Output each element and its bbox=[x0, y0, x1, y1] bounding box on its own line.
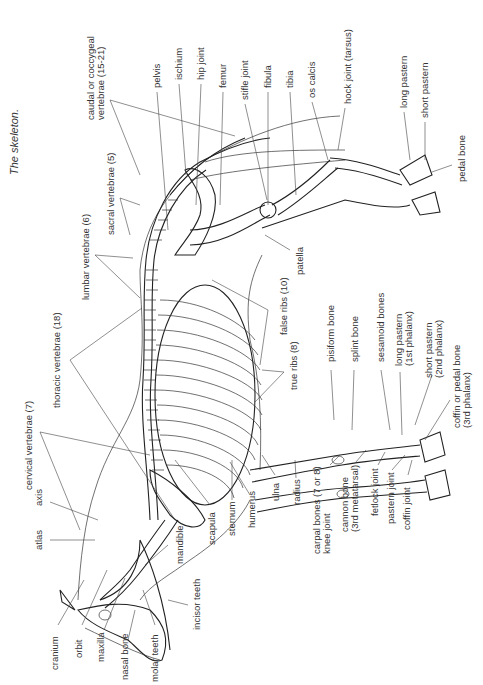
figure-title: The skeleton. bbox=[8, 109, 20, 175]
label-incisor-teeth: incisor teeth bbox=[191, 579, 202, 630]
label-pelvis: pelvis bbox=[151, 63, 162, 88]
label-atlas: atlas bbox=[33, 530, 44, 550]
label-coffin-joint: coffin joint bbox=[401, 487, 412, 530]
label-splint-bone: splint bone bbox=[349, 316, 360, 362]
label-scapula: scapula bbox=[206, 512, 217, 545]
label-hock-joint: hock joint (tarsus) bbox=[342, 29, 353, 104]
label-true-ribs: true ribs (8) bbox=[288, 341, 299, 390]
label-os-calcis: os calcis bbox=[306, 61, 317, 98]
label-cranium: cranium bbox=[49, 636, 60, 670]
horse-skeleton-diagram: The skeleton. bbox=[0, 0, 483, 685]
label-ischium: ischium bbox=[173, 48, 184, 80]
label-short-pastern-hind: short pastern bbox=[419, 63, 430, 118]
skeleton-drawing bbox=[60, 116, 450, 661]
label-tibia: tibia bbox=[284, 70, 295, 88]
label-thoracic-vertebrae: thoracic vertebrae (18) bbox=[51, 312, 62, 408]
label-cannon-bone: cannon bone(3rd metatarsal) bbox=[339, 465, 360, 532]
label-molar-teeth: molar teeth bbox=[149, 634, 160, 682]
label-mandible: mandible bbox=[174, 525, 185, 564]
label-pastern-joint: pastern joint bbox=[385, 472, 396, 524]
label-long-pastern-fore: long pastern(1st phalanx) bbox=[393, 311, 414, 366]
label-orbit: orbit bbox=[73, 639, 84, 658]
label-sacral-vertebrae: sacral vertebrae (5) bbox=[105, 153, 116, 235]
label-fetlock-joint: fetlock joint bbox=[369, 468, 380, 516]
label-ulna: ulna bbox=[270, 482, 281, 501]
labels: caudal or coccygealvertebrae (15-21) pel… bbox=[23, 29, 472, 682]
label-pedal-bone: pedal bone bbox=[456, 135, 467, 182]
label-radius: radius bbox=[291, 479, 302, 505]
label-lumbar-vertebrae: lumbar vertebrae (6) bbox=[80, 214, 91, 300]
label-maxilla: maxilla bbox=[95, 632, 106, 662]
label-long-pastern-hind: long pastern bbox=[398, 56, 409, 108]
label-femur: femur bbox=[217, 64, 228, 88]
label-false-ribs: false ribs (10) bbox=[278, 277, 289, 335]
label-cervical-vertebrae: cervical vertebrae (7) bbox=[23, 401, 34, 490]
label-patella: patella bbox=[294, 246, 305, 275]
label-hip-joint: hip joint bbox=[195, 47, 206, 80]
label-stifle-joint: stifle joint bbox=[239, 60, 250, 100]
label-fibula: fibula bbox=[262, 65, 273, 88]
label-humerus: humerus bbox=[246, 491, 257, 528]
leader-lines bbox=[40, 84, 452, 640]
label-pisiform-bone: pisiform bone bbox=[325, 305, 336, 362]
label-axis: axis bbox=[33, 489, 44, 506]
label-coffin-pedal-bone: coffin or pedal bone(3rd phalanx) bbox=[451, 345, 472, 428]
label-carpal-bones: carpal bones (7 or 8)knee joint bbox=[311, 466, 332, 554]
label-sesamoid-bones: sesamoid bones bbox=[375, 293, 386, 362]
label-sternum: sternum bbox=[226, 502, 237, 536]
label-nasal-bone: nasal bone bbox=[119, 634, 130, 680]
label-short-pastern-fore: short pastern(2nd phalanx) bbox=[423, 320, 444, 378]
label-caudal-vertebrae: caudal or coccygealvertebrae (15-21) bbox=[85, 36, 106, 120]
